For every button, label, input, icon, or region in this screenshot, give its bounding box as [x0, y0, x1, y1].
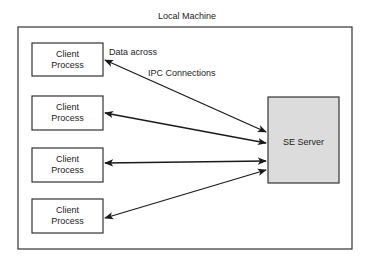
client-process-1: Client Process	[32, 43, 103, 76]
se-server-label: SE Server	[283, 137, 324, 147]
client-label-line1: Client	[56, 49, 80, 59]
client-process-3: Client Process	[32, 148, 103, 182]
ipc-connection-2	[105, 113, 266, 143]
client-process-2: Client Process	[32, 96, 103, 130]
ipc-connection-3	[105, 161, 266, 163]
client-label-line2: Process	[51, 165, 84, 175]
ipc-connection-4	[105, 170, 266, 218]
client-process-4: Client Process	[32, 199, 103, 233]
client-label-line2: Process	[51, 216, 84, 226]
client-label-line1: Client	[56, 154, 80, 164]
client-label-line1: Client	[56, 205, 80, 215]
annotation-data-across: Data across	[109, 47, 158, 57]
diagram-canvas: Local Machine Client Process Client Proc…	[0, 0, 370, 263]
se-server: SE Server	[268, 97, 339, 183]
client-label-line2: Process	[51, 60, 84, 70]
client-label-line1: Client	[56, 102, 80, 112]
annotation-ipc-connections: IPC Connections	[148, 68, 216, 78]
local-machine-label: Local Machine	[158, 11, 216, 21]
client-label-line2: Process	[51, 113, 84, 123]
